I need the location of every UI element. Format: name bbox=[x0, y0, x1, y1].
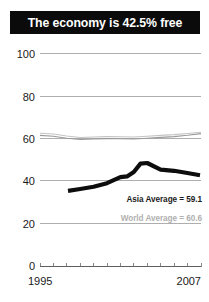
legend-label-asia: Asia Average = 59.1 bbox=[126, 195, 202, 204]
xtick-label-start: 1995 bbox=[28, 275, 52, 287]
ytick-label-0: 0 bbox=[29, 260, 35, 272]
legend-item-world: World Average = 60.6 bbox=[92, 207, 202, 226]
xtick-label-end: 2007 bbox=[177, 275, 201, 287]
ytick-label-80: 80 bbox=[23, 91, 35, 103]
ytick-label-20: 20 bbox=[23, 218, 35, 230]
legend-item-asia: Asia Average = 59.1 bbox=[92, 188, 202, 207]
chart-plot-area: 100 80 60 40 20 0 1995 2007 bbox=[0, 0, 209, 302]
economic-freedom-chart: The economy is 42.5% free 100 80 60 40 2… bbox=[0, 0, 209, 302]
ytick-label-60: 60 bbox=[23, 133, 35, 145]
legend-label-world: World Average = 60.6 bbox=[121, 214, 202, 223]
ytick-label-40: 40 bbox=[23, 175, 35, 187]
series-country bbox=[68, 163, 200, 191]
ytick-label-100: 100 bbox=[17, 48, 35, 60]
chart-legend: Asia Average = 59.1 World Average = 60.6 bbox=[92, 188, 202, 225]
